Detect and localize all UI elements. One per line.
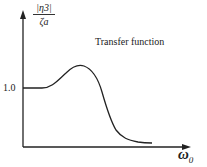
y-tick-label: 1.0	[3, 82, 16, 93]
chart-title: Transfer function	[95, 36, 164, 47]
y-axis-label-numerator: |η3|	[33, 2, 55, 15]
y-axis-label: |η3| ζa	[33, 2, 55, 27]
y-axis-label-denominator: ζa	[33, 15, 55, 27]
x-axis-label-sub: 0	[189, 155, 194, 165]
x-axis-label: ω0	[178, 146, 193, 165]
y-axis-arrow-icon	[20, 10, 26, 19]
transfer-function-curve	[23, 65, 152, 143]
x-axis-label-main: ω	[178, 146, 189, 162]
chart-canvas	[0, 0, 207, 167]
